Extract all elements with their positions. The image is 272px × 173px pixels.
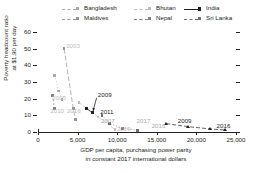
- y-tick: [33, 115, 37, 116]
- data-point: [91, 111, 94, 114]
- x-tick-label: 15,000: [137, 136, 177, 143]
- year-annotation: 2017: [137, 117, 151, 124]
- year-annotation: 2016: [67, 107, 81, 114]
- y-tick-right: [236, 132, 240, 133]
- data-point: [208, 127, 212, 130]
- y-tick-label: 30: [13, 78, 31, 85]
- x-tick: [78, 132, 79, 135]
- data-point: [85, 107, 88, 110]
- y-tick-label: 40: [13, 61, 31, 68]
- data-point: [63, 47, 66, 50]
- year-annotation: 2010: [50, 107, 64, 114]
- y-tick-label: 0: [13, 128, 31, 135]
- y-tick-right: [236, 82, 240, 83]
- y-axis-origin-stub: [38, 129, 39, 133]
- y-tick-right: [236, 99, 240, 100]
- x-tick-label: 0: [18, 136, 58, 143]
- chart-page: BangladeshBhutanIndiaMaldivesNepalSri La…: [0, 0, 272, 173]
- year-annotation: 2007: [101, 117, 115, 124]
- year-annotation: 2009: [178, 117, 192, 124]
- y-tick-right: [236, 49, 240, 50]
- data-point: [57, 90, 60, 93]
- y-tick: [33, 99, 37, 100]
- y-tick-right: [236, 115, 240, 116]
- y-tick: [33, 32, 37, 33]
- data-point: [74, 118, 77, 121]
- year-annotation: 2005: [52, 94, 66, 101]
- year-annotation: 2003: [66, 42, 80, 49]
- x-tick: [157, 132, 158, 135]
- y-tick-label: 20: [13, 95, 31, 102]
- y-tick: [33, 49, 37, 50]
- year-annotation: 2016: [152, 122, 166, 129]
- x-tick-label: 10,000: [97, 136, 137, 143]
- x-tick: [117, 132, 118, 135]
- x-tick-label: 5,000: [58, 136, 98, 143]
- data-point: [114, 128, 117, 131]
- x-tick-label: 20,000: [176, 136, 216, 143]
- y-tick-label: 60: [13, 28, 31, 35]
- year-annotation: 2009: [117, 125, 131, 132]
- y-tick: [33, 82, 37, 83]
- y-tick-label: 50: [13, 45, 31, 52]
- x-tick: [196, 132, 197, 135]
- data-point: [136, 129, 139, 132]
- series-lines: [0, 0, 272, 173]
- data-point: [53, 74, 56, 77]
- year-annotation: 2016: [217, 122, 231, 129]
- y-tick-label: 10: [13, 111, 31, 118]
- y-tick: [33, 65, 37, 66]
- y-tick: [33, 132, 37, 133]
- data-point: [186, 125, 190, 128]
- x-tick-label: 25,000: [216, 136, 256, 143]
- y-tick-right: [236, 32, 240, 33]
- y-tick-right: [236, 65, 240, 66]
- year-annotation: 2009: [98, 91, 112, 98]
- data-point: [97, 116, 100, 119]
- data-layer: 2003200520102016200920112007200920172016…: [0, 0, 272, 173]
- data-point: [78, 101, 81, 104]
- year-annotation: 2011: [100, 108, 113, 115]
